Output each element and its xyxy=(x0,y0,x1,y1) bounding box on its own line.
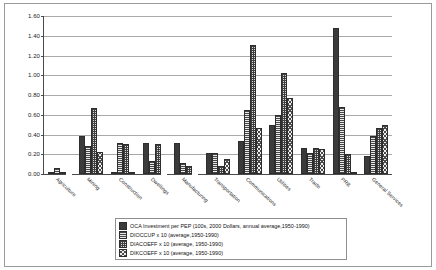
bar-series-group xyxy=(44,16,392,174)
x-axis-tick-label: PRB xyxy=(339,176,351,188)
legend-label: DIACOEFF x 10 (average, 1950-1990) xyxy=(130,241,223,247)
bar xyxy=(66,174,72,175)
x-axis-label-cell: PRB xyxy=(328,175,360,193)
bar xyxy=(129,172,135,174)
bar-group xyxy=(202,16,234,174)
bar-group xyxy=(139,16,171,174)
legend-item: DIOCCUP x 10 (average,1950-1990) xyxy=(119,230,343,239)
bar xyxy=(351,172,357,174)
plot-area: 0.000.200.400.600.801.001.201.401.60 Agr… xyxy=(5,4,433,194)
bar-group xyxy=(234,16,266,174)
bar xyxy=(224,159,230,174)
bar-group xyxy=(76,16,108,174)
x-axis-label-cell: Manufacturing xyxy=(170,175,202,193)
legend-swatch xyxy=(119,222,127,230)
y-axis-tick-label: 0.00 xyxy=(28,171,40,177)
bar-group xyxy=(297,16,329,174)
x-axis-label-cell: Utilities xyxy=(264,175,296,193)
bar xyxy=(382,125,388,174)
x-axis-label-cell: Communications xyxy=(233,175,265,193)
y-axis-tick-label: 0.80 xyxy=(28,92,40,98)
bar-group xyxy=(44,16,76,174)
legend-swatch xyxy=(119,231,127,239)
y-axis-tick-label: 1.60 xyxy=(28,13,40,19)
legend-label: DIOCCUP x 10 (average,1950-1990) xyxy=(130,232,219,238)
y-axis-tick-label: 1.40 xyxy=(28,33,40,39)
x-axis-label-cell: Construction xyxy=(106,175,138,193)
y-axis-tick-label: 0.40 xyxy=(28,132,40,138)
legend-swatch xyxy=(119,240,127,248)
x-axis-tick-label: General Services xyxy=(371,176,405,208)
x-axis-label-cell: Trade xyxy=(296,175,328,193)
bar xyxy=(97,152,103,174)
bar-group xyxy=(171,16,203,174)
y-axis-tick-label: 1.00 xyxy=(28,72,40,78)
x-axis-tick-label: Trade xyxy=(308,176,322,190)
chart-container: 0.000.200.400.600.801.001.201.401.60 Agr… xyxy=(4,3,432,267)
legend-item: DIACOEFF x 10 (average, 1950-1990) xyxy=(119,239,343,248)
x-axis-tick-label: Dwellings xyxy=(150,176,171,196)
bar xyxy=(155,144,161,174)
legend-item: OCA Investment per PEP (100s, 2000 Dolla… xyxy=(119,221,343,230)
bar-group xyxy=(265,16,297,174)
y-axis-tick-label: 0.20 xyxy=(28,151,40,157)
y-axis-tick-label: 0.60 xyxy=(28,112,40,118)
bar-group xyxy=(329,16,361,174)
bar xyxy=(256,128,262,174)
bar xyxy=(123,144,129,174)
legend-swatch xyxy=(119,249,127,257)
x-axis-label-cell: Dwellings xyxy=(138,175,170,193)
x-axis-label-cell: Transportation xyxy=(201,175,233,193)
x-axis-tick-label: Utilities xyxy=(276,176,293,192)
x-axis-labels: AgricultureMiningConstructionDwellingsMa… xyxy=(43,175,391,193)
chart-legend: OCA Investment per PEP (100s, 2000 Dolla… xyxy=(115,218,347,260)
legend-item: DIKCOEFF x 10 (average, 1950-1990) xyxy=(119,248,343,257)
plot-canvas: 0.000.200.400.600.801.001.201.401.60 xyxy=(43,16,392,175)
bar xyxy=(287,98,293,174)
bar xyxy=(161,174,167,175)
bar xyxy=(319,149,325,174)
x-axis-tick-label: Mining xyxy=(86,176,101,191)
x-axis-label-cell: General Services xyxy=(359,175,391,193)
legend-label: DIKCOEFF x 10 (average, 1950-1990) xyxy=(130,250,223,256)
x-axis-label-cell: Agriculture xyxy=(43,175,75,193)
y-axis-tick-label: 1.20 xyxy=(28,53,40,59)
bar-group xyxy=(107,16,139,174)
legend-label: OCA Investment per PEP (100s, 2000 Dolla… xyxy=(130,223,310,229)
x-axis-label-cell: Mining xyxy=(75,175,107,193)
bar-group xyxy=(360,16,392,174)
bar xyxy=(192,174,198,175)
